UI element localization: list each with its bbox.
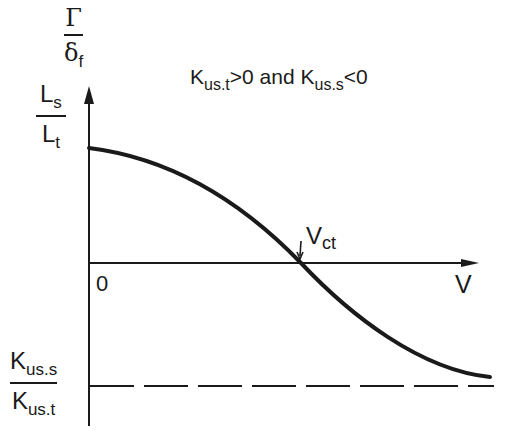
kus-s-symbol: Kus.s — [10, 349, 57, 378]
lt-symbol: Lt — [42, 122, 60, 151]
y-axis-arrowhead — [84, 86, 94, 104]
x-axis-label-v: V — [455, 272, 472, 297]
vct-marker-arrow — [300, 241, 301, 256]
fraction-bar — [10, 382, 57, 384]
ls-symbol: Ls — [40, 82, 62, 111]
crossing-label-vct: Vct — [306, 224, 336, 252]
y-axis-label-ls-over-lt: Ls Lt — [40, 82, 62, 151]
gamma-symbol: Γ — [65, 6, 82, 30]
condition-text: Kus.t>0 and Kus.s<0 — [190, 66, 368, 93]
y-axis-label-gamma-over-delta: Γ δf — [64, 6, 83, 70]
fraction-bar — [64, 34, 83, 36]
fraction-bar — [36, 115, 66, 117]
kus-t-symbol: Kus.t — [12, 389, 55, 418]
asymptote-label-ratio: Kus.s Kus.t — [10, 349, 57, 418]
origin-label: 0 — [96, 273, 108, 295]
x-axis-arrowhead — [461, 259, 479, 267]
delta-f-symbol: δf — [64, 41, 83, 70]
